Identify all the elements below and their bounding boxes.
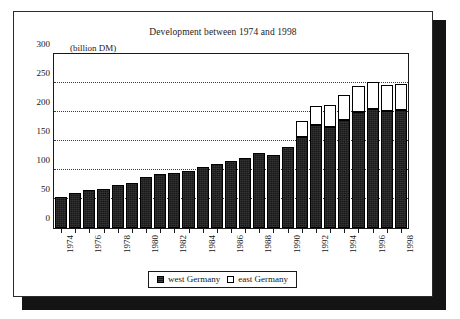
bar-segment-west-germany: [97, 189, 109, 228]
x-axis-tick-mark: [259, 228, 260, 233]
x-axis-tick-mark: [75, 228, 76, 233]
bar-segment-west-germany: [211, 164, 223, 228]
bar-stack: [211, 54, 223, 228]
x-axis-tick-mark: [231, 228, 232, 233]
bar-stack: [367, 54, 379, 228]
bar-segment-east-germany: [352, 86, 364, 112]
y-axis-unit-label: (billion DM): [70, 43, 116, 53]
y-axis-tick-label: 0: [46, 213, 51, 223]
bar-segment-west-germany: [197, 167, 209, 228]
chart-legend: west Germany east Germany: [148, 271, 297, 288]
bar-segment-west-germany: [267, 155, 279, 228]
y-axis-tick-label: 250: [37, 68, 51, 78]
bar-segment-west-germany: [395, 110, 407, 228]
bar-stack: [197, 54, 209, 228]
bar-segment-west-germany: [225, 161, 237, 228]
bar-stack: [182, 54, 194, 228]
bar-segment-east-germany: [381, 85, 393, 111]
bar-segment-west-germany: [367, 109, 379, 228]
x-axis-tick-mark: [273, 228, 274, 233]
plot-area: 050100150200250300 197419761978198019821…: [53, 53, 409, 229]
bar-segment-west-germany: [239, 158, 251, 228]
bar-stack: [140, 54, 152, 228]
bars-group: [54, 54, 408, 228]
chart-page-frame: Development between 1974 and 1998 (billi…: [13, 11, 433, 297]
x-axis-tick-mark: [203, 228, 204, 233]
bar-stack: [352, 54, 364, 228]
x-axis-tick-label: 1988: [263, 235, 273, 253]
bar-stack: [253, 54, 265, 228]
x-axis-tick-mark: [401, 228, 402, 233]
x-axis-tick-mark: [245, 228, 246, 233]
bar-stack: [267, 54, 279, 228]
x-axis-tick-mark: [330, 228, 331, 233]
x-axis-tick-label: 1982: [178, 235, 188, 253]
x-axis-tick-mark: [104, 228, 105, 233]
bar-segment-west-germany: [296, 137, 308, 228]
bar-segment-west-germany: [182, 171, 194, 228]
x-axis-tick-label: 1978: [122, 235, 132, 253]
bar-segment-west-germany: [55, 197, 67, 228]
bar-stack: [168, 54, 180, 228]
legend-label-west-germany: west Germany: [168, 274, 220, 284]
bar-stack: [126, 54, 138, 228]
bar-segment-east-germany: [395, 84, 407, 110]
bar-segment-east-germany: [296, 121, 308, 137]
bar-stack: [112, 54, 124, 228]
bar-stack: [282, 54, 294, 228]
bar-segment-west-germany: [324, 127, 336, 228]
x-axis-tick-mark: [217, 228, 218, 233]
legend-entry-west-germany: west Germany: [157, 274, 220, 284]
y-axis-tick-label: 300: [37, 39, 51, 49]
plot-inner: 050100150200250300 197419761978198019821…: [54, 54, 408, 228]
bar-stack: [395, 54, 407, 228]
bar-segment-west-germany: [282, 147, 294, 228]
x-axis-tick-mark: [174, 228, 175, 233]
x-axis-tick-label: 1992: [320, 235, 330, 253]
x-axis-tick-label: 1994: [348, 235, 358, 253]
bar-segment-west-germany: [112, 185, 124, 228]
x-axis-tick-label: 1986: [235, 235, 245, 253]
bar-stack: [338, 54, 350, 228]
bar-segment-west-germany: [69, 193, 81, 228]
bar-stack: [296, 54, 308, 228]
bar-segment-west-germany: [83, 190, 95, 228]
bar-segment-west-germany: [154, 174, 166, 228]
bar-stack: [381, 54, 393, 228]
bar-segment-west-germany: [126, 183, 138, 228]
x-axis-tick-label: 1998: [405, 235, 415, 253]
x-axis-tick-label: 1984: [207, 235, 217, 253]
x-axis-tick-label: 1976: [93, 235, 103, 253]
bar-stack: [324, 54, 336, 228]
bar-stack: [225, 54, 237, 228]
x-axis-tick-label: 1974: [65, 235, 75, 253]
x-axis-tick-mark: [160, 228, 161, 233]
chart-title: Development between 1974 and 1998: [14, 27, 432, 37]
x-axis-tick-mark: [146, 228, 147, 233]
bar-segment-east-germany: [324, 105, 336, 127]
x-axis-tick-mark: [387, 228, 388, 233]
bar-segment-west-germany: [140, 177, 152, 228]
hollow-white-square-icon: [227, 276, 234, 283]
bar-stack: [154, 54, 166, 228]
x-axis-tick-mark: [373, 228, 374, 233]
x-axis-tick-label: 1996: [377, 235, 387, 253]
x-axis-tick-mark: [344, 228, 345, 233]
x-axis-tick-mark: [358, 228, 359, 233]
y-axis-tick-label: 200: [37, 97, 51, 107]
filled-dark-square-icon: [157, 276, 164, 283]
x-axis-tick-mark: [132, 228, 133, 233]
bar-segment-east-germany: [367, 82, 379, 108]
y-axis-tick-label: 50: [41, 184, 50, 194]
bar-segment-east-germany: [338, 95, 350, 120]
bar-stack: [55, 54, 67, 228]
x-axis-tick-mark: [189, 228, 190, 233]
legend-entry-east-germany: east Germany: [227, 274, 288, 284]
bar-segment-west-germany: [253, 153, 265, 228]
x-axis-tick-mark: [316, 228, 317, 233]
legend-label-east-germany: east Germany: [238, 274, 288, 284]
bar-segment-west-germany: [338, 120, 350, 228]
x-axis-tick-label: 1990: [292, 235, 302, 253]
bar-segment-west-germany: [310, 125, 322, 228]
x-axis-tick-mark: [89, 228, 90, 233]
